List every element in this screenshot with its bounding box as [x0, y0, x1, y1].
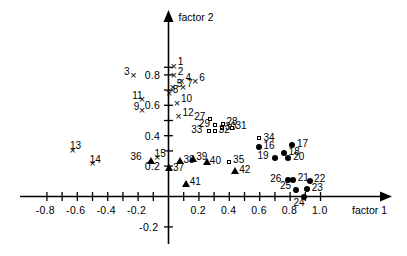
- data-point-label: 26: [270, 174, 281, 184]
- data-point-label: 8: [173, 85, 179, 95]
- data-point-label: 34: [264, 133, 275, 143]
- x-axis-tick-label: -0.4: [97, 205, 116, 216]
- x-axis-tick-label: 1.0: [312, 205, 328, 216]
- data-point-label: 23: [312, 183, 323, 193]
- data-point-marker: ×: [130, 70, 136, 81]
- data-point-label: 14: [90, 155, 101, 165]
- data-point-marker: [207, 129, 211, 133]
- data-point-marker: [213, 123, 217, 127]
- data-point-label: 31: [235, 121, 246, 131]
- x-axis-tick-label: -0.6: [66, 205, 85, 216]
- data-point-label: 15: [155, 149, 166, 159]
- data-point-label: 12: [182, 108, 193, 118]
- x-axis-tick-label: -0.2: [127, 205, 146, 216]
- data-point-marker: ×: [180, 82, 186, 93]
- data-point-marker: [256, 144, 262, 150]
- data-point-marker: [213, 129, 217, 133]
- data-point-marker: [227, 160, 231, 164]
- data-point-marker: [230, 126, 234, 130]
- data-point-label: 13: [70, 141, 81, 151]
- data-point-label: 32: [219, 125, 230, 135]
- x-axis-tick-label: -0.8: [36, 205, 55, 216]
- data-point-label: 41: [190, 177, 201, 187]
- data-point-label: 36: [130, 152, 141, 162]
- data-point-marker: [147, 157, 155, 164]
- y-axis-tick-label: -0.2: [139, 222, 158, 233]
- data-point-label: 20: [293, 152, 304, 162]
- data-point-marker: [231, 167, 239, 174]
- y-axis-tick-label: 0.6: [145, 100, 161, 111]
- data-point-label: 33: [191, 125, 202, 135]
- data-point-marker: ×: [174, 98, 180, 109]
- data-point-marker: [272, 155, 278, 161]
- data-point-marker: [165, 164, 173, 171]
- x-axis-tick-label: 0.6: [251, 205, 267, 216]
- x-axis-title: factor 1: [352, 205, 387, 216]
- data-point-label: 42: [239, 165, 250, 175]
- scatter-plot-figure: -0.8-0.6-0.4-0.20.20.40.60.81.00.80.60.4…: [0, 0, 407, 256]
- data-point-marker: [182, 180, 190, 187]
- data-point-label: 10: [181, 94, 192, 104]
- data-point-label: 3: [124, 67, 130, 77]
- data-point-label: 19: [257, 151, 268, 161]
- data-point-label: 11: [132, 91, 142, 101]
- data-point-label: 24: [294, 198, 305, 208]
- data-point-marker: [285, 177, 291, 183]
- y-axis-title: factor 2: [179, 12, 214, 23]
- x-axis-tick-label: 0.4: [221, 205, 237, 216]
- x-axis-tick-label: 0.2: [191, 205, 207, 216]
- data-point-label: 6: [199, 73, 205, 83]
- y-axis-arrow: [164, 10, 174, 22]
- data-point-label: 40: [210, 156, 221, 166]
- y-axis-tick-label: 0.8: [145, 70, 161, 81]
- x-axis-arrow: [380, 192, 392, 202]
- data-point-label: 7: [187, 79, 193, 89]
- data-point-marker: [257, 136, 261, 140]
- data-point-marker: ×: [139, 105, 145, 116]
- y-axis-tick-label: 0.4: [145, 131, 161, 142]
- data-point-marker: ×: [175, 111, 181, 122]
- data-point-marker: ×: [166, 88, 172, 99]
